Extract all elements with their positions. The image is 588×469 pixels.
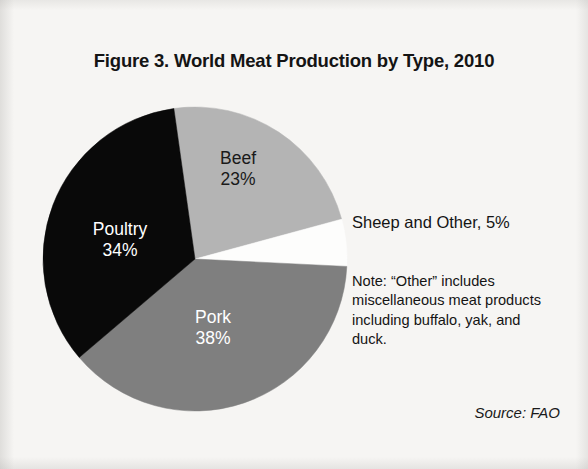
- figure-container: Figure 3. World Meat Production by Type,…: [0, 0, 588, 469]
- pie-slice-group: [43, 107, 347, 411]
- pie-label-beef: Beef23%: [220, 148, 256, 189]
- pie-label-pork: Pork38%: [195, 307, 231, 348]
- source-label: Source: FAO: [474, 404, 560, 421]
- sheep-and-other-callout: Sheep and Other, 5%: [352, 213, 510, 232]
- chart-note: Note: “Other” includes miscellaneous mea…: [352, 272, 548, 350]
- pie-chart: Beef23%Pork38%Poultry34%: [0, 0, 588, 469]
